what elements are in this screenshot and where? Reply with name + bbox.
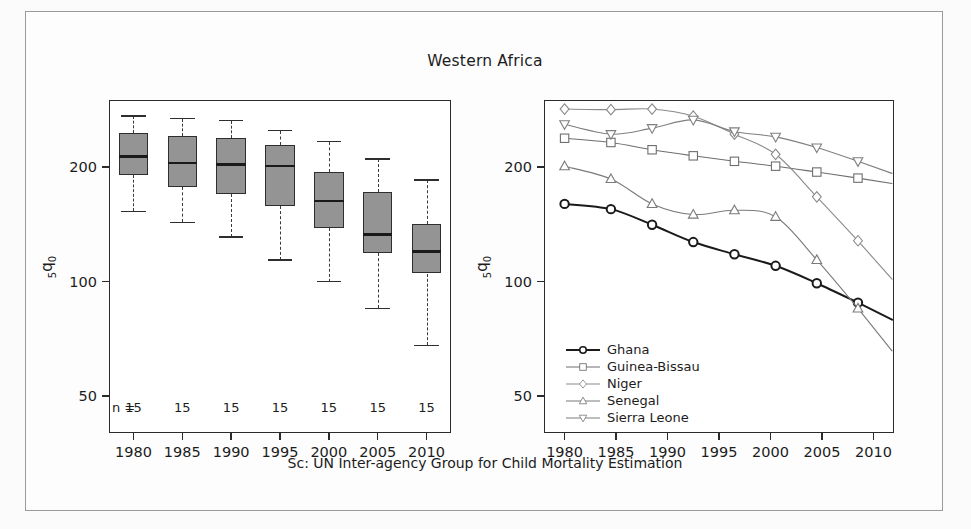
boxplot-median-line	[216, 163, 245, 166]
lineplot-x-tick	[667, 433, 668, 440]
boxplot-whisker-upper	[280, 131, 281, 146]
boxplot-sample-count: 15	[258, 400, 302, 415]
boxplot-whisker-lower	[329, 228, 330, 281]
boxplot-median-line	[363, 233, 392, 236]
boxplot-whisker-upper	[231, 121, 232, 138]
legend-item-label: Senegal	[607, 393, 659, 408]
boxplot-iqr-rect	[265, 145, 294, 206]
boxplot-x-tick	[426, 433, 427, 440]
boxplot-cap-lower	[219, 236, 244, 237]
boxplot-sample-count: 15	[356, 400, 400, 415]
lineplot-x-tick	[821, 433, 822, 440]
boxplot-whisker-lower	[182, 187, 183, 222]
boxplot-cap-upper	[317, 141, 342, 142]
chart-legend: GhanaGuinea-BissauNigerSenegalSierra Leo…	[566, 341, 700, 426]
boxplot-whisker-lower	[378, 253, 379, 309]
lineplot-x-tick	[718, 433, 719, 440]
boxplot-cap-upper	[268, 130, 293, 131]
boxplot-whisker-upper	[378, 159, 379, 192]
lineplot-x-tick	[770, 433, 771, 440]
boxplot-y-tick-label: 200	[51, 159, 97, 175]
boxplot-median-line	[412, 250, 441, 253]
triangle-up-marker	[566, 394, 600, 408]
boxplot-iqr-rect	[119, 133, 148, 176]
boxplot-sample-count: 15	[160, 400, 204, 415]
boxplot-cap-upper	[414, 179, 439, 180]
boxplot-x-tick	[328, 433, 329, 440]
boxplot-cap-lower	[170, 222, 195, 223]
boxplot-iqr-rect	[412, 224, 441, 274]
boxplot-x-tick	[133, 433, 134, 440]
boxplot-cap-lower	[365, 308, 390, 309]
diamond-marker	[566, 377, 600, 391]
lineplot-y-axis-label: 5q0	[473, 232, 493, 302]
boxplot-whisker-upper	[427, 180, 428, 224]
boxplot-whisker-upper	[133, 116, 134, 133]
lineplot-y-tick	[537, 395, 544, 396]
boxplot-cap-lower	[121, 211, 146, 212]
boxplot-y-tick	[102, 281, 109, 282]
lineplot-x-tick	[564, 433, 565, 440]
legend-item-label: Niger	[607, 376, 642, 391]
boxplot-x-tick	[377, 433, 378, 440]
boxplot-y-tick	[102, 395, 109, 396]
boxplot-whisker-upper	[329, 142, 330, 172]
boxplot-cap-lower	[317, 281, 342, 282]
boxplot-whisker-upper	[182, 119, 183, 136]
boxplot-cap-upper	[170, 118, 195, 119]
boxplot-cap-lower	[268, 259, 293, 260]
legend-item-ghana[interactable]: Ghana	[566, 341, 700, 358]
lineplot-y-tick-label: 200	[486, 159, 532, 175]
boxplot-x-tick	[182, 433, 183, 440]
legend-item-niger[interactable]: Niger	[566, 375, 700, 392]
lineplot-y-tick-label: 50	[486, 388, 532, 404]
legend-item-guinea-bissau[interactable]: Guinea-Bissau	[566, 358, 700, 375]
source-caption: Sc: UN Inter-agency Group for Child Mort…	[26, 455, 944, 471]
boxplot-sample-count: 15	[307, 400, 351, 415]
lineplot-y-tick	[537, 281, 544, 282]
boxplot-iqr-rect	[363, 192, 392, 253]
boxplot-sample-count: 15	[405, 400, 449, 415]
boxplot-whisker-lower	[427, 274, 428, 346]
legend-item-label: Guinea-Bissau	[607, 359, 700, 374]
boxplot-x-tick	[230, 433, 231, 440]
lineplot-x-tick	[873, 433, 874, 440]
boxplot-panel: 5010020019801519851519901519951520001520…	[26, 12, 486, 512]
boxplot-cap-upper	[121, 115, 146, 116]
square-marker	[566, 360, 600, 374]
boxplot-cap-upper	[219, 120, 244, 121]
lineplot-x-tick	[615, 433, 616, 440]
boxplot-n-prefix-label: n =	[112, 400, 135, 415]
figure-canvas: Western Africa 5010020019801519851519901…	[0, 0, 971, 529]
boxplot-whisker-lower	[231, 194, 232, 237]
boxplot-y-axis-label: 5q0	[38, 232, 58, 302]
figure-paper: Western Africa 5010020019801519851519901…	[25, 11, 943, 511]
boxplot-y-tick-label: 50	[51, 388, 97, 404]
lineplot-y-tick	[537, 166, 544, 167]
boxplot-median-line	[119, 155, 148, 158]
legend-item-senegal[interactable]: Senegal	[566, 392, 700, 409]
boxplot-cap-upper	[365, 158, 390, 159]
boxplot-y-tick	[102, 166, 109, 167]
circle-marker	[566, 343, 600, 357]
boxplot-median-line	[265, 165, 294, 168]
boxplot-median-line	[168, 162, 197, 165]
triangle-down-marker	[566, 411, 600, 425]
boxplot-cap-lower	[414, 345, 439, 346]
legend-item-label: Ghana	[607, 342, 650, 357]
boxplot-median-line	[314, 200, 343, 203]
boxplot-whisker-lower	[133, 175, 134, 211]
boxplot-x-tick	[279, 433, 280, 440]
legend-item-sierra-leone[interactable]: Sierra Leone	[566, 409, 700, 426]
boxplot-whisker-lower	[280, 206, 281, 260]
boxplot-sample-count: 15	[209, 400, 253, 415]
legend-item-label: Sierra Leone	[607, 410, 689, 425]
lineplot-panel: 501002001980198519901995200020052010 5q0…	[486, 12, 944, 512]
